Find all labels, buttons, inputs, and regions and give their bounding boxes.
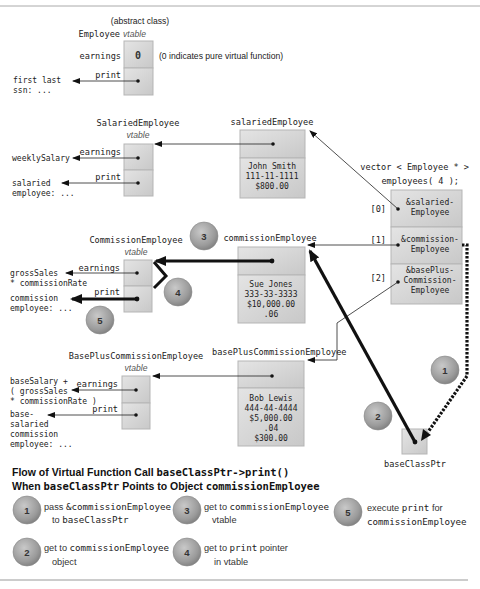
employee-print-target-2: ssn: ...	[13, 86, 52, 95]
baseplus-vtable-suffix: vtable	[125, 363, 148, 373]
svg-text:&basePlus-: &basePlus-	[406, 266, 454, 275]
step-marker-3: 3	[190, 222, 218, 250]
baseplus-earnings-label: earnings	[77, 379, 118, 389]
svg-text:Employee: Employee	[411, 245, 450, 254]
commission-vtable-classname: CommissionEmployee	[89, 235, 182, 245]
svg-text:get to commissionEmployee: get to commissionEmployee	[204, 501, 329, 512]
svg-text:execute print for: execute print for	[367, 502, 443, 513]
baseplus-earnings-target-2: ( grossSales	[10, 387, 68, 396]
step-marker-5: 5	[86, 306, 114, 334]
commission-field-sales: $10,000.00	[247, 300, 295, 309]
svg-text:Commission-: Commission-	[404, 276, 457, 285]
legend-item-4: 4 get to print pointer in vtable	[173, 538, 288, 567]
svg-text:commissionEmployee: commissionEmployee	[367, 516, 467, 527]
pure-virtual-note: (0 indicates pure virtual function)	[159, 51, 283, 61]
baseplus-print-target-3: commission	[10, 430, 58, 439]
salaried-print-target: salaried	[12, 179, 51, 188]
employees-vector: vector < Employee * > employees( 4 ); [0…	[308, 131, 469, 360]
commission-print-target: commission	[10, 294, 58, 303]
baseplus-print-target-2: salaried	[10, 420, 49, 429]
baseplus-field-rate: .04	[264, 424, 279, 433]
baseplus-print-target-4: employee: ...	[10, 440, 73, 449]
step4-arrow	[154, 262, 166, 288]
employee-vtable: (abstract class) Employee vtable 0 earni…	[13, 16, 283, 95]
legend: 1 pass &commissionEmployee to baseClassP…	[13, 496, 467, 567]
step-marker-2: 2	[364, 402, 392, 430]
salaried-vtable: SalariedEmployee vtable earnings print w…	[12, 118, 179, 198]
svg-text:1: 1	[24, 505, 30, 516]
svg-text:pass &commissionEmployee: pass &commissionEmployee	[44, 501, 171, 512]
vector-declaration: vector < Employee * >	[360, 162, 469, 172]
svg-text:Employee: Employee	[411, 208, 450, 217]
legend-item-5: 5 execute print for commissionEmployee	[334, 498, 467, 527]
commission-earnings-label: earnings	[79, 263, 120, 273]
baseplus-earnings-target: baseSalary +	[10, 377, 68, 386]
base-class-ptr-label: baseClassPtr	[384, 459, 446, 469]
employee-vtable-suffix: vtable	[123, 29, 146, 39]
svg-text:2: 2	[375, 411, 380, 422]
commission-object-name: commissionEmployee	[223, 233, 316, 243]
legend-item-2: 2 get to commissionEmployee object	[13, 538, 169, 567]
baseplus-earnings-target-3: * commissionRate )	[10, 397, 97, 406]
svg-text:4: 4	[184, 547, 190, 558]
vector-index-0: [0]	[370, 204, 386, 214]
salaried-field-name: John Smith	[248, 162, 296, 171]
vector-index-2: [2]	[370, 273, 386, 283]
vector-index-1: [1]	[370, 235, 386, 245]
baseplus-field-ssn: 444-44-4444	[245, 404, 298, 413]
baseplus-vtable: BasePlusCommissionEmployee vtable earnin…	[10, 351, 203, 449]
employee-print-target: first last	[13, 76, 61, 85]
salaried-field-ssn: 111-11-1111	[246, 172, 299, 181]
svg-text:5: 5	[345, 507, 351, 518]
legend-item-1: 1 pass &commissionEmployee to baseClassP…	[13, 496, 171, 525]
caption: Flow of Virtual Function Call baseClassP…	[12, 466, 320, 492]
baseplus-print-target: base-	[10, 410, 34, 419]
employee-earnings-label: earnings	[80, 51, 121, 61]
salaried-print-target-2: employee: ...	[12, 189, 75, 198]
baseplus-object: basePlusCommissionEmployee Bob Lewis 444…	[153, 347, 347, 446]
pure-virtual-zero: 0	[135, 50, 141, 61]
svg-text:3: 3	[184, 505, 189, 516]
svg-text:1: 1	[442, 365, 448, 376]
commission-vtable: CommissionEmployee vtable earnings print…	[10, 235, 183, 313]
svg-text:get to print pointer: get to print pointer	[204, 542, 288, 553]
salaried-earnings-label: earnings	[80, 147, 121, 157]
commission-print-label: print	[94, 287, 120, 297]
svg-text:Employee: Employee	[411, 286, 450, 295]
salaried-vtable-suffix: vtable	[127, 130, 150, 140]
baseplus-object-name: basePlusCommissionEmployee	[212, 347, 347, 357]
svg-text:4: 4	[175, 287, 181, 298]
commission-print-target-2: employee: ...	[10, 304, 73, 313]
salaried-vtable-classname: SalariedEmployee	[97, 118, 180, 128]
vector-declaration-2: employees( 4 );	[381, 176, 459, 186]
salaried-object-name: salariedEmployee	[231, 117, 314, 127]
gross-sales-target-2: * commissionRate	[10, 279, 87, 288]
employee-abstract-label: (abstract class)	[111, 16, 169, 26]
step-marker-4: 4	[164, 278, 192, 306]
svg-text:3: 3	[201, 231, 206, 242]
svg-text:&salaried-: &salaried-	[406, 198, 454, 207]
legend-item-3: 3 get to commissionEmployee vtable	[173, 496, 329, 525]
baseplus-field-name: Bob Lewis	[249, 394, 293, 403]
caption-line-2: When baseClassPtr Points to Object commi…	[12, 480, 320, 492]
svg-text:to baseClassPtr: to baseClassPtr	[52, 514, 129, 525]
svg-text:object: object	[52, 557, 77, 567]
baseplus-vtable-classname: BasePlusCommissionEmployee	[69, 351, 204, 361]
svg-text:vtable: vtable	[212, 515, 237, 525]
commission-field-ssn: 333-33-3333	[245, 290, 298, 299]
svg-text:5: 5	[97, 315, 103, 326]
salaried-field-salary: $800.00	[255, 182, 289, 191]
weekly-salary-target: weeklySalary	[12, 154, 70, 163]
svg-text:&commission-: &commission-	[401, 235, 459, 244]
svg-text:2: 2	[24, 547, 29, 558]
commission-field-name: Sue Jones	[249, 280, 293, 289]
commission-vtable-suffix: vtable	[125, 247, 148, 257]
baseplus-field-sales: $5,000.00	[249, 414, 293, 423]
gross-sales-target: grossSales	[10, 269, 58, 278]
employee-print-label: print	[95, 70, 121, 80]
virtual-function-diagram: (abstract class) Employee vtable 0 earni…	[0, 0, 480, 589]
salaried-object: salariedEmployee John Smith 111-11-1111 …	[155, 117, 313, 198]
commission-field-rate: .06	[264, 310, 279, 319]
caption-line-1: Flow of Virtual Function Call baseClassP…	[12, 466, 289, 478]
baseplus-field-base: $300.00	[254, 434, 288, 443]
